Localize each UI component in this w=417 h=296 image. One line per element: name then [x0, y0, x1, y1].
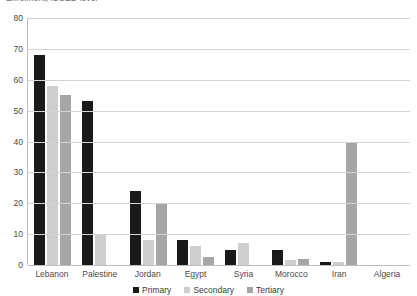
x-axis-tick-label: Algeria: [363, 266, 411, 282]
x-axis-tick-label: Iran: [315, 266, 363, 282]
legend-swatch-icon: [133, 287, 139, 293]
chart-legend: PrimarySecondaryTertiary: [0, 285, 417, 295]
bar-primary[interactable]: [130, 191, 141, 265]
gridline: [28, 203, 410, 204]
bar-primary[interactable]: [82, 101, 93, 265]
bar-tertiary[interactable]: [60, 95, 71, 265]
legend-item-label: Primary: [142, 285, 171, 295]
chart-title: Enrolment, ISCED level: [6, 0, 97, 3]
legend-swatch-icon: [184, 287, 190, 293]
gridline: [28, 111, 410, 112]
legend-item-primary[interactable]: Primary: [133, 285, 171, 295]
y-axis-tick-label: 20: [1, 198, 23, 208]
legend-item-label: Secondary: [193, 285, 234, 295]
legend-item-label: Tertiary: [256, 285, 284, 295]
bar-tertiary[interactable]: [203, 257, 214, 265]
y-axis-tick-label: 50: [1, 106, 23, 116]
bar-primary[interactable]: [272, 250, 283, 265]
y-axis-tick-label: 80: [1, 13, 23, 23]
bar-secondary[interactable]: [95, 234, 106, 265]
y-axis-tick-label: 0: [1, 260, 23, 270]
bar-chart: Enrolment, ISCED level 01020304050607080…: [0, 0, 417, 296]
gridline: [28, 49, 410, 50]
x-axis-tick-label: Egypt: [172, 266, 220, 282]
bar-primary[interactable]: [177, 240, 188, 265]
x-axis-labels: LebanonPalestineJordanEgyptSyriaMoroccoI…: [28, 266, 411, 282]
bar-secondary[interactable]: [47, 86, 58, 265]
bar-primary[interactable]: [225, 250, 236, 265]
y-axis-tick-label: 70: [1, 44, 23, 54]
gridline: [28, 80, 410, 81]
bar-secondary[interactable]: [190, 246, 201, 265]
x-axis-tick-label: Morocco: [267, 266, 315, 282]
y-axis-tick-label: 10: [1, 229, 23, 239]
gridline: [28, 234, 410, 235]
legend-item-secondary[interactable]: Secondary: [184, 285, 234, 295]
legend-item-tertiary[interactable]: Tertiary: [247, 285, 284, 295]
bar-secondary[interactable]: [143, 240, 154, 265]
x-axis-tick-label: Syria: [220, 266, 268, 282]
y-axis-tick-label: 40: [1, 137, 23, 147]
legend-swatch-icon: [247, 287, 253, 293]
y-axis-tick-label: 60: [1, 75, 23, 85]
x-axis-tick-label: Palestine: [76, 266, 124, 282]
bar-secondary[interactable]: [238, 243, 249, 265]
y-axis-tick-label: 30: [1, 167, 23, 177]
plot-area: [27, 18, 410, 265]
gridline: [28, 172, 410, 173]
x-axis-tick-label: Lebanon: [28, 266, 76, 282]
gridline: [28, 18, 410, 19]
x-axis-tick-label: Jordan: [124, 266, 172, 282]
gridline: [28, 142, 410, 143]
